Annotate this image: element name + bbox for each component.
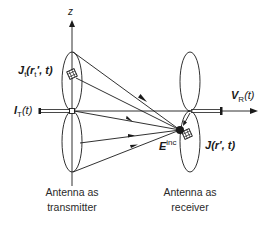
transmitter-feed-line: [39, 108, 71, 114]
receiver-caption: Antenna as receiver: [145, 185, 235, 215]
receiver-current-density-label: J(r′, t): [205, 139, 235, 151]
incident-point: [176, 126, 184, 134]
transmitter-current-density-label: Jt(rt′, t): [18, 64, 53, 79]
incident-field-label: Einc: [159, 138, 177, 152]
receiver-caption-line2: receiver: [145, 200, 235, 215]
transmitter-input-current-label: IT(t): [14, 104, 32, 119]
r-vector-arrow-icon: [183, 120, 187, 126]
transmitter-feed-point: [70, 109, 75, 114]
terminal-icon: [39, 111, 42, 114]
antenna-reciprocity-diagram: z Jt(rt′, t) IT(t) VR(t) Einc J(r′, t) A…: [0, 0, 270, 225]
transmitter-caption: Antenna as transmitter: [27, 185, 117, 215]
z-axis: [69, 20, 75, 186]
terminal-icon: [39, 108, 42, 111]
output-arrow-icon: [250, 108, 258, 114]
transmitter-caption-line1: Antenna as: [27, 185, 117, 200]
z-axis-arrow-icon: [69, 20, 75, 27]
receiver-lower-lobe: [180, 111, 200, 172]
receiver-voltage-label: VR(t): [231, 89, 255, 104]
receiver-caption-line1: Antenna as: [145, 185, 235, 200]
radiated-rays: [73, 52, 180, 172]
transmitter-source-element-icon: [67, 69, 78, 80]
transmitter-caption-line2: transmitter: [27, 200, 117, 215]
z-axis-label: z: [68, 6, 73, 17]
receiver-upper-lobe: [180, 52, 200, 111]
receiver-output-line: [191, 107, 258, 115]
receiver-antenna: [176, 52, 200, 172]
